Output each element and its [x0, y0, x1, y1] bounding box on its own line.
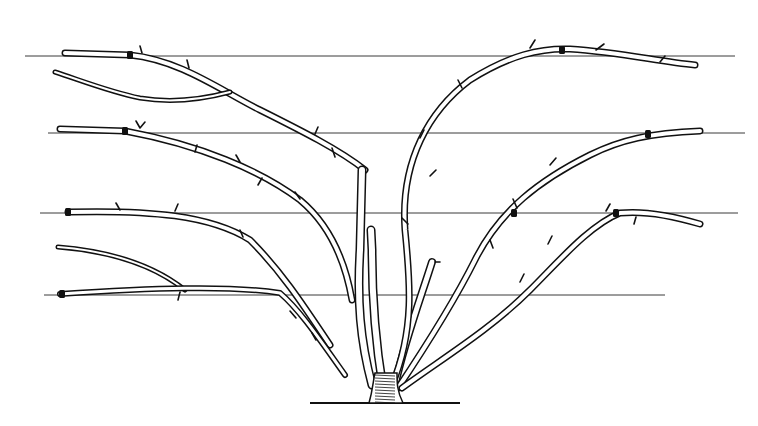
illustration-svg: [0, 0, 758, 426]
wire-tie: [59, 290, 65, 298]
wire-tie: [559, 46, 565, 54]
spur: [548, 236, 552, 244]
spur: [187, 60, 189, 68]
spur: [175, 204, 178, 211]
wire-tie: [122, 127, 128, 135]
left-low-side-a: [58, 247, 185, 290]
left-mid-cane: [68, 212, 330, 345]
wire-tie: [511, 209, 517, 217]
spur: [140, 46, 142, 53]
plant-base: [310, 373, 460, 403]
spur: [490, 240, 493, 248]
spur: [178, 292, 180, 300]
wire-tie: [613, 209, 619, 217]
spur: [136, 121, 145, 128]
spur: [634, 217, 636, 224]
spur: [606, 204, 610, 211]
spur: [530, 40, 535, 48]
spur: [430, 170, 436, 176]
wire-tie: [127, 51, 133, 59]
spur: [550, 158, 556, 165]
spur: [520, 274, 524, 282]
center-trunk: [371, 230, 383, 388]
support-wires: [25, 56, 745, 295]
plant-stems: [55, 49, 700, 388]
wire-tie: [65, 208, 71, 216]
right-tall-cane: [392, 49, 695, 385]
fan-trained-shrub-illustration: [0, 0, 758, 426]
right-mid-cane: [398, 131, 700, 388]
wire-tie: [645, 130, 651, 138]
